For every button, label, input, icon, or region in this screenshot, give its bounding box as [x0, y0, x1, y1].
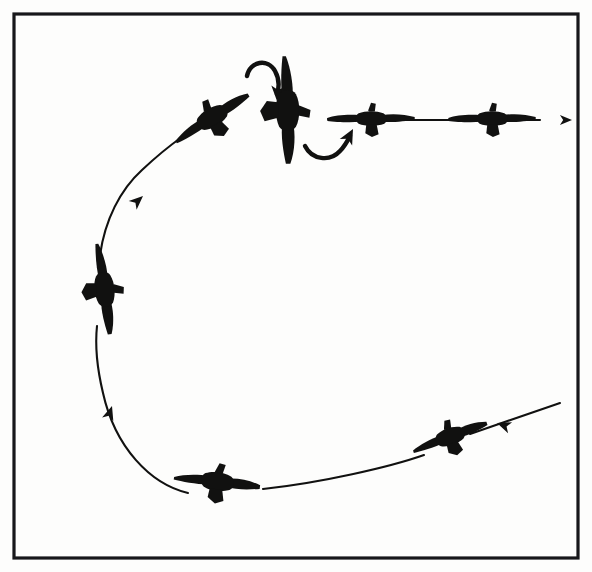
roll-arrow-bottom-curve [305, 136, 350, 158]
aircraft-upper-left-rolling-out [165, 80, 260, 159]
exit-arrowhead [560, 115, 572, 125]
direction-arrows [102, 115, 572, 433]
roll-arrow-bottom [305, 126, 359, 158]
flight-path-segment [470, 403, 560, 434]
flight-path-segment [100, 137, 182, 255]
aviation-turn-diagram: Steep turn reversal sequence Line-art av… [0, 0, 592, 572]
aircraft-entry-banked [407, 408, 493, 469]
flight-path [96, 119, 560, 493]
aircraft-level-first [327, 103, 414, 137]
aircraft-silhouettes [77, 56, 536, 509]
aircraft-left-knife-edge [77, 242, 129, 337]
aircraft-level-second [448, 103, 535, 137]
aircraft-bottom-banked [171, 457, 262, 509]
figure-root: Steep turn reversal sequence Line-art av… [0, 0, 592, 572]
roll-arrow-bottom-head [340, 126, 359, 146]
aircraft-center-wings-vertical [260, 56, 310, 164]
upper-left-arrowhead [129, 192, 147, 210]
flight-path-segment [263, 455, 424, 489]
